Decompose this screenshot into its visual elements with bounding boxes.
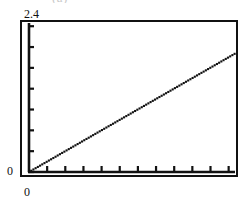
plot-svg (22, 22, 236, 175)
caption-fragment-text: (a) (52, 0, 92, 3)
axis-lines-group (28, 23, 235, 172)
figure-panel: (a) 2.4 0 0 (0, 0, 248, 203)
plot-canvas (22, 22, 236, 175)
y-axis-max-label: 2.4 (24, 8, 39, 20)
y-axis-min-label: 0 (7, 165, 13, 177)
x-axis-min-label: 0 (24, 186, 30, 198)
data-series-group (28, 53, 236, 173)
